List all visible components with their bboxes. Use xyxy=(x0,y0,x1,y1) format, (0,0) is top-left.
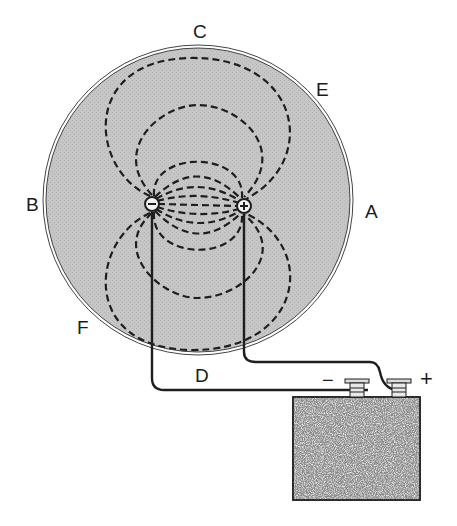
field-diagram: C E B A F D − + xyxy=(0,0,457,526)
positive-electrode xyxy=(237,199,251,213)
label-b: B xyxy=(26,195,39,214)
conducting-disc xyxy=(43,45,353,355)
label-a: A xyxy=(365,202,378,221)
diagram-svg xyxy=(0,0,457,526)
battery-plus-label: + xyxy=(420,368,433,390)
battery-negative-terminal xyxy=(345,379,369,397)
label-e: E xyxy=(316,80,329,99)
battery xyxy=(293,379,420,500)
label-f: F xyxy=(77,318,89,337)
label-d: D xyxy=(195,366,209,385)
label-c: C xyxy=(193,22,207,41)
negative-electrode xyxy=(145,197,159,211)
battery-minus-label: − xyxy=(322,370,334,390)
